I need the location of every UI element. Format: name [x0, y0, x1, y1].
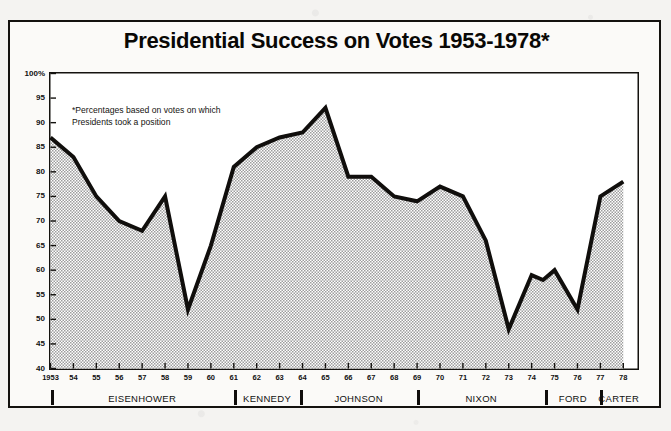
x-tick-label: 64: [298, 374, 306, 382]
president-label: KENNEDY: [243, 393, 291, 404]
x-tick-label: 63: [275, 374, 283, 382]
y-tick-label: 50: [36, 315, 45, 323]
x-tick-label: 72: [482, 374, 490, 382]
x-tick-label: 78: [619, 374, 627, 382]
x-tick-label: 62: [253, 374, 261, 382]
x-tick-label: 60: [207, 374, 215, 382]
y-tick-label: 80: [36, 168, 45, 176]
y-tick-label: 70: [36, 217, 45, 225]
screenshot-page: Presidential Success on Votes 1953-1978*: [0, 0, 671, 431]
president-label: CARTER: [598, 393, 639, 404]
president-label: NIXON: [465, 393, 497, 404]
x-tick-label: 54: [69, 374, 77, 382]
y-tick-label: 95: [36, 94, 45, 102]
president-divider: [300, 390, 303, 405]
x-tick-label: 68: [390, 374, 398, 382]
x-tick-label: 74: [527, 374, 535, 382]
x-tick-label: 75: [550, 374, 558, 382]
x-tick-label: 66: [344, 374, 352, 382]
x-tick-label: 57: [138, 374, 146, 382]
president-label: EISENHOWER: [108, 393, 176, 404]
president-divider: [417, 390, 420, 405]
president-divider: [545, 390, 548, 405]
x-tick-label: 71: [459, 374, 467, 382]
x-tick-label: 77: [596, 374, 604, 382]
president-divider: [234, 390, 237, 405]
president-divider: [51, 390, 54, 405]
x-tick-label: 59: [184, 374, 192, 382]
y-tick-label: 55: [36, 291, 45, 299]
footnote-annotation: *Percentages based on votes on which Pre…: [72, 104, 221, 129]
x-tick-label: 65: [321, 374, 329, 382]
y-tick-label: 75: [36, 192, 45, 200]
y-tick-label: 65: [36, 242, 45, 250]
x-tick-label: 67: [367, 374, 375, 382]
x-tick-label: 61: [230, 374, 238, 382]
chart-card: Presidential Success on Votes 1953-1978*: [8, 20, 661, 408]
y-tick-label: 85: [36, 143, 45, 151]
y-tick-label: 40: [36, 365, 45, 373]
president-label: FORD: [559, 393, 587, 404]
x-tick-label: 58: [161, 374, 169, 382]
x-tick-label: 73: [505, 374, 513, 382]
x-tick-label: 1953: [42, 374, 59, 382]
y-tick-label: 100%: [25, 70, 45, 78]
y-tick-label: 60: [36, 266, 45, 274]
page-title: Presidential Success on Votes 1953-1978*: [10, 28, 663, 54]
president-band: EISENHOWERKENNEDYJOHNSONNIXONFORDCARTER: [49, 390, 639, 412]
y-tick-label: 45: [36, 340, 45, 348]
y-tick-label: 90: [36, 119, 45, 127]
x-tick-label: 76: [573, 374, 581, 382]
x-tick-label: 55: [92, 374, 100, 382]
x-tick-label: 69: [413, 374, 421, 382]
x-tick-label: 70: [436, 374, 444, 382]
president-label: JOHNSON: [334, 393, 383, 404]
x-tick-label: 56: [115, 374, 123, 382]
